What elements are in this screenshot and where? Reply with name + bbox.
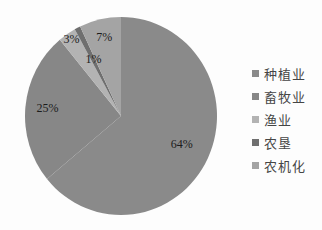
chart-canvas: 64%25%3%1%7% 种植业 畜牧业 渔业 农垦 农机化 [0, 0, 322, 230]
legend-item: 渔业 [252, 108, 306, 131]
pie-slice-label: 64% [171, 137, 193, 151]
legend-item: 畜牧业 [252, 85, 306, 108]
legend-marker-icon [252, 116, 259, 123]
legend-label: 畜牧业 [264, 87, 306, 106]
legend-label: 种植业 [264, 64, 306, 83]
pie-slice-label: 1% [86, 52, 102, 66]
legend-label: 农机化 [264, 156, 306, 175]
pie-slice-label: 3% [63, 32, 79, 46]
legend-label: 渔业 [264, 110, 292, 129]
legend-item: 种植业 [252, 62, 306, 85]
legend-label: 农垦 [264, 133, 292, 152]
legend-marker-icon [252, 139, 259, 146]
pie-slice-label: 25% [36, 101, 58, 115]
chart-legend: 种植业 畜牧业 渔业 农垦 农机化 [252, 62, 306, 177]
legend-marker-icon [252, 93, 259, 100]
pie-slice-label: 7% [96, 30, 112, 44]
legend-marker-icon [252, 162, 259, 169]
legend-item: 农机化 [252, 154, 306, 177]
legend-marker-icon [252, 70, 259, 77]
legend-item: 农垦 [252, 131, 306, 154]
